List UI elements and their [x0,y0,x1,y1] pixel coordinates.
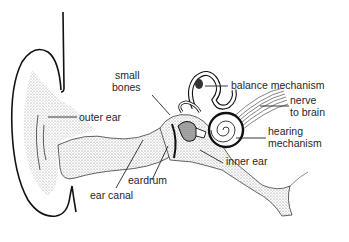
head-outline-bottom [290,172,308,186]
label-inner-ear: inner ear [226,156,267,167]
label-outer-ear: outer ear [79,112,121,123]
label-hearing-line1: hearing [268,126,303,137]
label-small-bones-line2: bones [112,82,141,93]
label-nerve-line2: to brain [290,107,325,118]
label-hearing-line2: mechanism [268,138,322,149]
label-ear-canal: ear canal [90,190,133,201]
label-balance-mechanism: balance mechanism [231,80,324,91]
cochlea-shape [209,113,243,147]
head-outline-top [61,12,64,92]
label-eardrum: eardrum [128,175,167,186]
balance-mechanism-shape [180,73,235,112]
pinna-shading [24,70,95,196]
label-nerve-line1: nerve [290,95,316,106]
ear-anatomy-illustration [0,0,349,242]
label-small-bones-line1: small [115,70,140,81]
